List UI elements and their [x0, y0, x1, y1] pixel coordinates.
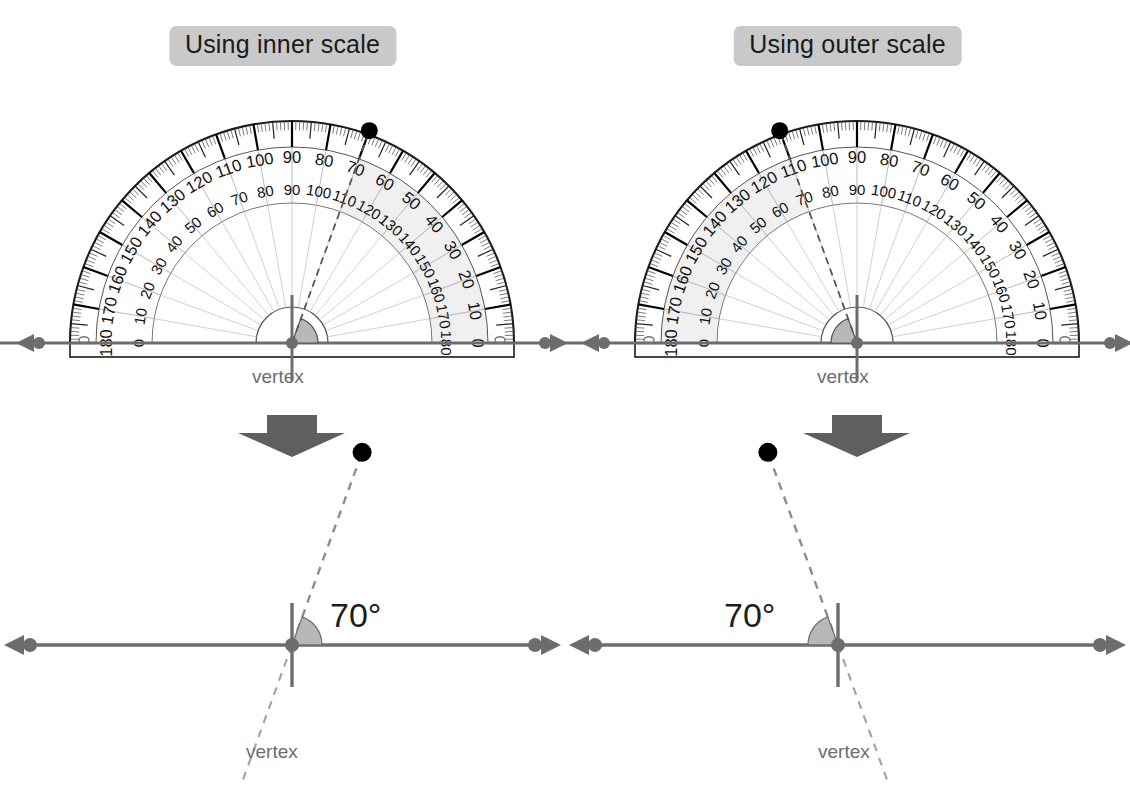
svg-text:90: 90 [849, 181, 866, 198]
svg-text:170: 170 [98, 296, 121, 326]
svg-text:20: 20 [136, 280, 158, 301]
svg-text:10: 10 [465, 300, 486, 321]
panel-outer-scale: Using outer scale 0180101702016030150401… [565, 0, 1130, 786]
svg-text:70: 70 [229, 187, 250, 209]
svg-text:30: 30 [147, 255, 170, 278]
svg-text:90: 90 [283, 148, 301, 166]
svg-text:40: 40 [987, 211, 1013, 237]
down-arrow-left [0, 405, 565, 465]
svg-text:100: 100 [870, 181, 898, 202]
svg-text:110: 110 [213, 155, 244, 181]
svg-text:150: 150 [116, 234, 145, 267]
svg-text:60: 60 [938, 170, 963, 195]
svg-text:90: 90 [284, 181, 301, 198]
result-diagram-inner [0, 470, 565, 780]
svg-text:50: 50 [181, 213, 205, 237]
result-diagram-outer [565, 470, 1130, 780]
svg-text:170: 170 [998, 302, 1019, 330]
svg-text:80: 80 [879, 149, 900, 170]
down-arrow-right [565, 405, 1130, 465]
vertex-label-protractor-outer: vertex [817, 366, 869, 388]
angle-measure-outer: 70° [724, 596, 775, 635]
heading-outer-scale: Using outer scale [733, 26, 962, 66]
svg-text:130: 130 [156, 185, 189, 216]
svg-text:90: 90 [848, 148, 866, 166]
svg-text:100: 100 [305, 181, 333, 202]
svg-text:40: 40 [162, 232, 186, 256]
svg-text:50: 50 [964, 188, 990, 214]
svg-text:80: 80 [256, 182, 275, 202]
svg-text:100: 100 [810, 149, 840, 172]
vertex-label-result-inner: vertex [246, 741, 298, 763]
vertex-label-result-outer: vertex [818, 741, 870, 763]
angle-measure-inner: 70° [330, 596, 381, 635]
svg-text:80: 80 [314, 149, 335, 170]
panel-inner-scale: Using inner scale 0180101702016030150401… [0, 0, 565, 786]
svg-text:160: 160 [104, 263, 130, 295]
protractor-inner: 0180101702016030150401405013060120701108… [0, 96, 565, 361]
svg-text:160: 160 [989, 276, 1014, 305]
vertex-label-protractor-inner: vertex [252, 366, 304, 388]
svg-text:10: 10 [131, 307, 151, 326]
svg-text:30: 30 [1006, 238, 1031, 263]
svg-text:100: 100 [245, 149, 275, 172]
svg-text:10: 10 [1030, 300, 1051, 321]
protractor-outer: 0180101702016030150401405013060120701108… [565, 96, 1130, 361]
svg-text:10: 10 [696, 307, 716, 326]
svg-text:60: 60 [204, 198, 227, 221]
svg-text:110: 110 [896, 186, 924, 210]
svg-text:80: 80 [821, 182, 840, 202]
heading-inner-scale: Using inner scale [169, 26, 396, 66]
svg-text:120: 120 [183, 167, 216, 196]
svg-text:140: 140 [134, 207, 165, 240]
